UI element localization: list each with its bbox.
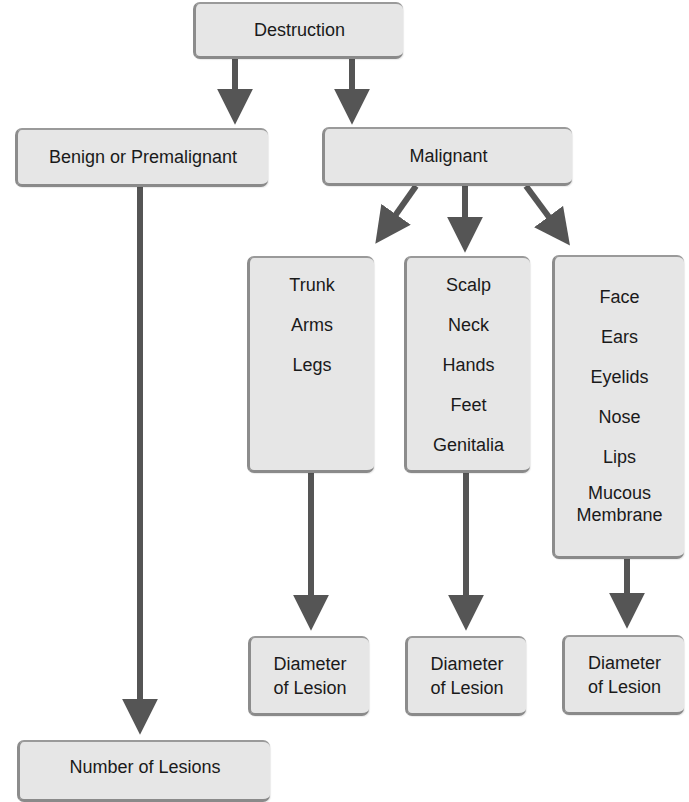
diameter-box-2: Diameter of Lesion: [405, 636, 526, 716]
site-trunk: Trunk: [289, 274, 334, 296]
benign-label: Benign or Premalignant: [49, 147, 237, 168]
site-mucous-membrane: Mucous Membrane: [576, 482, 662, 526]
site-eyelids: Eyelids: [590, 366, 648, 388]
number-of-lesions-box: Number of Lesions: [17, 740, 270, 802]
site-scalp: Scalp: [446, 274, 491, 296]
scalp-group-box: Scalp Neck Hands Feet Genitalia: [404, 256, 530, 473]
destruction-box: Destruction: [193, 2, 403, 59]
site-legs: Legs: [292, 354, 331, 376]
diameter-label-2: Diameter of Lesion: [430, 652, 503, 700]
site-feet: Feet: [450, 394, 486, 416]
diameter-box-1: Diameter of Lesion: [248, 636, 369, 716]
site-ears: Ears: [601, 326, 638, 348]
site-lips: Lips: [603, 446, 636, 468]
face-group-box: Face Ears Eyelids Nose Lips Mucous Membr…: [552, 255, 684, 559]
site-genitalia: Genitalia: [433, 434, 504, 456]
destruction-label: Destruction: [254, 20, 345, 41]
site-nose: Nose: [598, 406, 640, 428]
site-arms: Arms: [291, 314, 333, 336]
malignant-label: Malignant: [409, 146, 487, 167]
diameter-label-3: Diameter of Lesion: [588, 651, 661, 699]
malignant-box: Malignant: [322, 127, 572, 186]
arrow-malignant-to-trunk: [385, 186, 416, 230]
benign-box: Benign or Premalignant: [15, 128, 268, 187]
site-hands: Hands: [442, 354, 494, 376]
site-neck: Neck: [448, 314, 489, 336]
diameter-label-1: Diameter of Lesion: [273, 652, 346, 700]
trunk-group-box: Trunk Arms Legs: [247, 256, 374, 473]
arrow-malignant-to-face: [526, 186, 560, 232]
diameter-box-3: Diameter of Lesion: [562, 635, 684, 715]
site-face: Face: [599, 286, 639, 308]
number-of-lesions-label: Number of Lesions: [69, 757, 220, 778]
